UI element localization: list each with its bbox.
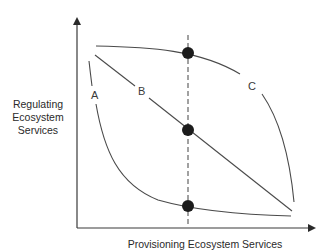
y-axis-label-line-2: Ecosystem	[0, 111, 76, 124]
curve-c-lower	[262, 94, 294, 202]
line-b-lower	[149, 98, 292, 211]
y-axis-label-line-3: Services	[0, 124, 76, 137]
curve-c	[96, 46, 240, 74]
y-axis-label-line-1: Regulating	[0, 98, 76, 111]
curve-label-a: A	[91, 89, 99, 101]
point-on-curve-a	[182, 200, 194, 212]
point-on-line-b	[182, 124, 194, 136]
curve-a	[89, 61, 92, 86]
line-b	[95, 55, 135, 86]
x-axis-label: Provisioning Ecosystem Services	[80, 238, 330, 250]
curve-a-lower	[96, 104, 291, 216]
y-axis-label: Regulating Ecosystem Services	[0, 98, 76, 137]
point-on-curve-c	[182, 47, 194, 59]
curve-label-c: C	[248, 80, 256, 92]
curve-label-b: B	[138, 85, 145, 97]
